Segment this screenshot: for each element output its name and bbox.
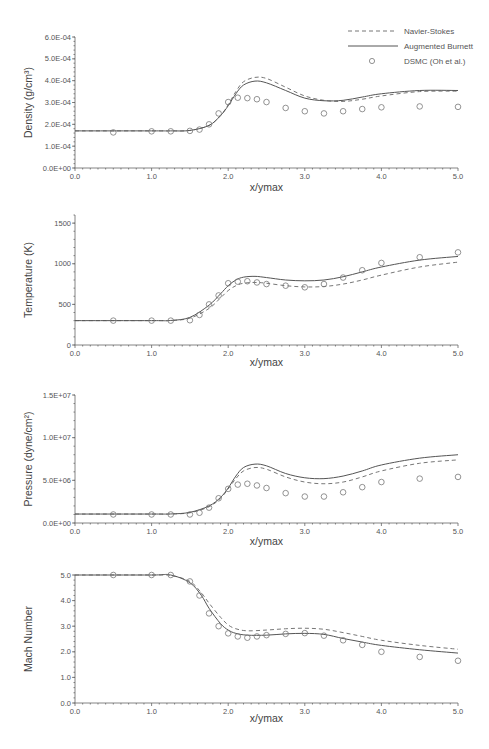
- x-tick-label: 4.0: [376, 707, 386, 716]
- y-tick-label: 2.0E-04: [45, 120, 71, 129]
- series-augmented-burnett-line: [75, 81, 458, 131]
- data-point-circle-icon: [379, 479, 385, 485]
- series-augmented-burnett-line: [75, 455, 458, 514]
- chart-panel-temperature: 0.01.02.03.04.05.0050010001500x/ymaxTemp…: [22, 215, 463, 368]
- data-point-circle-icon: [283, 105, 289, 111]
- x-tick-label: 1.0: [146, 707, 156, 716]
- x-tick-label: 1.0: [146, 527, 156, 536]
- data-point-circle-icon: [379, 105, 385, 111]
- x-tick-label: 5.0: [453, 349, 463, 358]
- x-tick-label: 0.0: [70, 527, 80, 536]
- data-point-circle-icon: [455, 104, 461, 110]
- data-point-circle-icon: [359, 642, 365, 648]
- y-tick-label: 2.0: [61, 647, 71, 656]
- series-dsmc-markers: [111, 95, 461, 135]
- data-point-circle-icon: [359, 106, 365, 112]
- data-point-circle-icon: [417, 104, 423, 110]
- x-tick-label: 1.0: [146, 349, 156, 358]
- data-point-circle-icon: [254, 96, 260, 102]
- x-axis-title: x/ymax: [250, 712, 284, 724]
- x-tick-label: 4.0: [376, 527, 386, 536]
- legend: Navier-Stokes Augmented Burnett DSMC (Oh…: [348, 27, 474, 66]
- data-point-circle-icon: [206, 302, 212, 308]
- x-axis-title: x/ymax: [250, 535, 284, 547]
- y-tick-label: 3.0: [61, 622, 71, 631]
- data-point-circle-icon: [264, 281, 270, 287]
- x-tick-label: 5.0: [453, 172, 463, 181]
- x-tick-label: 4.0: [376, 349, 386, 358]
- data-point-circle-icon: [235, 482, 241, 488]
- y-tick-label: 4.0E-04: [45, 76, 71, 85]
- y-axis-title: Pressure (dyne/cm²): [22, 411, 34, 506]
- x-tick-label: 3.0: [300, 527, 310, 536]
- y-tick-label: 5.0: [61, 571, 71, 580]
- data-point-circle-icon: [302, 494, 308, 500]
- data-point-circle-icon: [245, 95, 251, 101]
- y-tick-label: 0.0E+00: [43, 164, 71, 173]
- y-tick-label: 1500: [54, 219, 71, 228]
- series-augmented-burnett-line: [75, 574, 458, 653]
- data-point-circle-icon: [235, 95, 241, 101]
- data-point-circle-icon: [417, 254, 423, 260]
- data-point-circle-icon: [455, 658, 461, 664]
- x-tick-label: 3.0: [300, 349, 310, 358]
- data-point-circle-icon: [245, 635, 251, 641]
- x-tick-label: 5.0: [453, 707, 463, 716]
- x-tick-label: 2.0: [223, 707, 233, 716]
- series-dsmc-markers: [111, 474, 461, 517]
- x-tick-label: 2.0: [223, 349, 233, 358]
- y-tick-label: 3.0E-04: [45, 98, 71, 107]
- x-axis-title: x/ymax: [250, 356, 284, 368]
- legend-label-navier-stokes: Navier-Stokes: [404, 27, 454, 36]
- data-point-circle-icon: [206, 611, 212, 617]
- data-point-circle-icon: [417, 476, 423, 482]
- data-point-circle-icon: [455, 474, 461, 480]
- x-tick-label: 2.0: [223, 527, 233, 536]
- data-point-circle-icon: [283, 490, 289, 496]
- y-tick-label: 5.0E+06: [43, 476, 71, 485]
- x-tick-label: 3.0: [300, 172, 310, 181]
- y-tick-label: 6.0E-04: [45, 33, 71, 42]
- data-point-circle-icon: [359, 484, 365, 490]
- x-tick-label: 2.0: [223, 172, 233, 181]
- data-point-circle-icon: [225, 631, 231, 637]
- data-point-circle-icon: [455, 250, 461, 256]
- series-dsmc-markers: [111, 250, 461, 324]
- y-tick-label: 1.0E+07: [43, 433, 71, 442]
- x-tick-label: 0.0: [70, 707, 80, 716]
- y-axis-title: Mach Number: [22, 606, 34, 672]
- data-point-circle-icon: [379, 260, 385, 266]
- chart-panel-pressure: 0.01.02.03.04.05.00.0E+005.0E+061.0E+071…: [22, 391, 463, 548]
- data-point-circle-icon: [254, 634, 260, 640]
- x-tick-label: 0.0: [70, 349, 80, 358]
- data-point-circle-icon: [340, 108, 346, 114]
- x-tick-label: 0.0: [70, 172, 80, 181]
- y-tick-label: 0.0E+00: [43, 519, 71, 528]
- y-tick-label: 1.0E-04: [45, 142, 71, 151]
- series-dsmc-markers: [111, 572, 461, 663]
- y-tick-label: 1000: [54, 259, 71, 268]
- x-tick-label: 5.0: [453, 527, 463, 536]
- y-tick-label: 500: [58, 300, 71, 309]
- data-point-circle-icon: [216, 623, 222, 629]
- legend-label-dsmc: DSMC (Oh et al.): [404, 57, 466, 66]
- y-axis-title: Temperature (K): [22, 242, 34, 318]
- y-tick-label: 1.0: [61, 673, 71, 682]
- y-tick-label: 1.5E+07: [43, 391, 71, 400]
- y-axis-title: Density (g/cm³): [22, 67, 34, 138]
- data-point-circle-icon: [321, 633, 327, 639]
- data-point-circle-icon: [216, 111, 222, 117]
- data-point-circle-icon: [417, 654, 423, 660]
- y-tick-label: 0.0: [61, 699, 71, 708]
- data-point-circle-icon: [379, 649, 385, 655]
- series-navier-stokes-line: [75, 77, 458, 131]
- y-tick-label: 5.0E-04: [45, 54, 71, 63]
- figure-canvas: 0.01.02.03.04.05.00.0E+001.0E-042.0E-043…: [0, 0, 489, 749]
- chart-panel-mach: 0.01.02.03.04.05.00.01.02.03.04.05.0x/ym…: [22, 571, 463, 725]
- data-point-circle-icon: [235, 634, 241, 640]
- chart-panel-density: 0.01.02.03.04.05.00.0E+001.0E-042.0E-043…: [22, 33, 463, 194]
- legend-label-augmented-burnett: Augmented Burnett: [404, 42, 474, 51]
- data-point-circle-icon: [321, 494, 327, 500]
- data-point-circle-icon: [197, 312, 203, 318]
- series-augmented-burnett-line: [75, 256, 458, 320]
